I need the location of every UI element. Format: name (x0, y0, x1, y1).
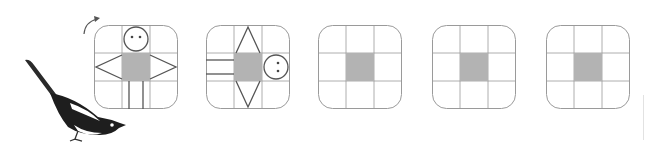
panel-4-empty-grid (432, 25, 516, 109)
page-edge-line (643, 95, 644, 140)
rotation-puzzle (0, 0, 646, 151)
panel-2-rotated-figure (206, 25, 290, 109)
panel-5-empty-grid (546, 25, 630, 109)
panel-3-empty-grid (318, 25, 402, 109)
panel-1-stick-figure (94, 25, 178, 109)
